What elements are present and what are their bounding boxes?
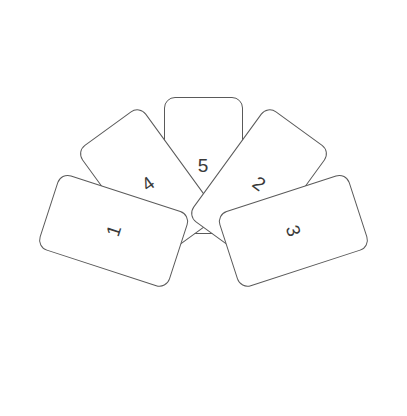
fan-card-label: 1	[102, 223, 123, 239]
fan-card-label: 2	[249, 173, 269, 195]
card-layer: 54213	[0, 0, 407, 416]
fan-card-label: 4	[138, 173, 158, 195]
fan-card-label: 3	[282, 223, 303, 239]
fan-card-label: 5	[198, 156, 209, 175]
card-fan-canvas: 54213	[0, 0, 407, 416]
